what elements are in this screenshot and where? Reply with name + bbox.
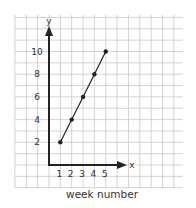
line-chart: y x 246810 12345	[0, 0, 196, 208]
data-point	[81, 95, 85, 99]
axes: y x	[45, 16, 135, 170]
data-point	[70, 117, 74, 121]
x-tick-label: 3	[79, 169, 85, 179]
x-tick-label: 1	[56, 169, 62, 179]
y-axis-arrow-icon	[45, 26, 53, 36]
data-point	[92, 72, 96, 76]
x-axis-letter: x	[129, 160, 135, 170]
x-tick-label: 4	[91, 169, 97, 179]
data-point	[58, 140, 62, 144]
x-axis-arrow-icon	[117, 161, 127, 169]
x-tick-labels: 12345	[56, 169, 107, 179]
x-tick-label: 2	[68, 169, 74, 179]
y-tick-label: 2	[34, 137, 40, 147]
y-tick-label: 4	[34, 115, 40, 125]
x-axis-label: week number	[0, 188, 196, 200]
grid-lines	[15, 15, 183, 188]
x-tick-label: 5	[102, 169, 108, 179]
y-tick-label: 6	[34, 92, 40, 102]
y-axis-letter: y	[46, 16, 52, 26]
y-tick-label: 8	[34, 69, 40, 79]
y-tick-label: 10	[31, 47, 43, 57]
data-point	[104, 49, 108, 53]
